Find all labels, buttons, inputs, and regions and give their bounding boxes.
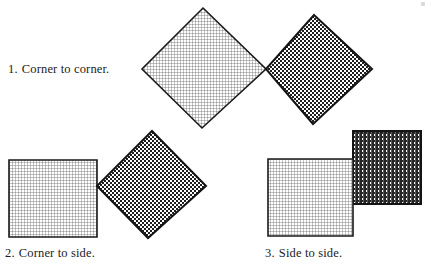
panel-1-dark-square (266, 15, 372, 124)
panel-2-caption-number: 2. (5, 246, 15, 260)
panel-3-dark-square (353, 131, 421, 204)
panel-3-shapes (268, 131, 421, 236)
panel-3-light-square (268, 159, 353, 236)
panel-2-caption-text: Corner to side. (19, 246, 95, 260)
shapes-diagram (0, 0, 431, 264)
panel-1-shapes (142, 8, 372, 128)
panel-2-shapes (9, 131, 206, 238)
panel-1-caption-number: 1. (8, 62, 18, 76)
panel-3-caption-number: 3. (265, 246, 275, 260)
panel-2-caption: 2.Corner to side. (5, 246, 95, 260)
panel-3-caption: 3.Side to side. (265, 246, 342, 260)
scan-artifact-speck (421, 2, 425, 6)
panel-2-dark-square (97, 131, 206, 238)
panel-1-caption-text: Corner to corner. (22, 62, 110, 76)
figure-container: 1.Corner to corner. 2.Corner to side. 3.… (0, 0, 431, 264)
panel-1-caption: 1.Corner to corner. (8, 62, 109, 76)
panel-1-light-square (142, 8, 266, 128)
panel-3-caption-text: Side to side. (279, 246, 342, 260)
panel-2-light-square (9, 160, 97, 237)
